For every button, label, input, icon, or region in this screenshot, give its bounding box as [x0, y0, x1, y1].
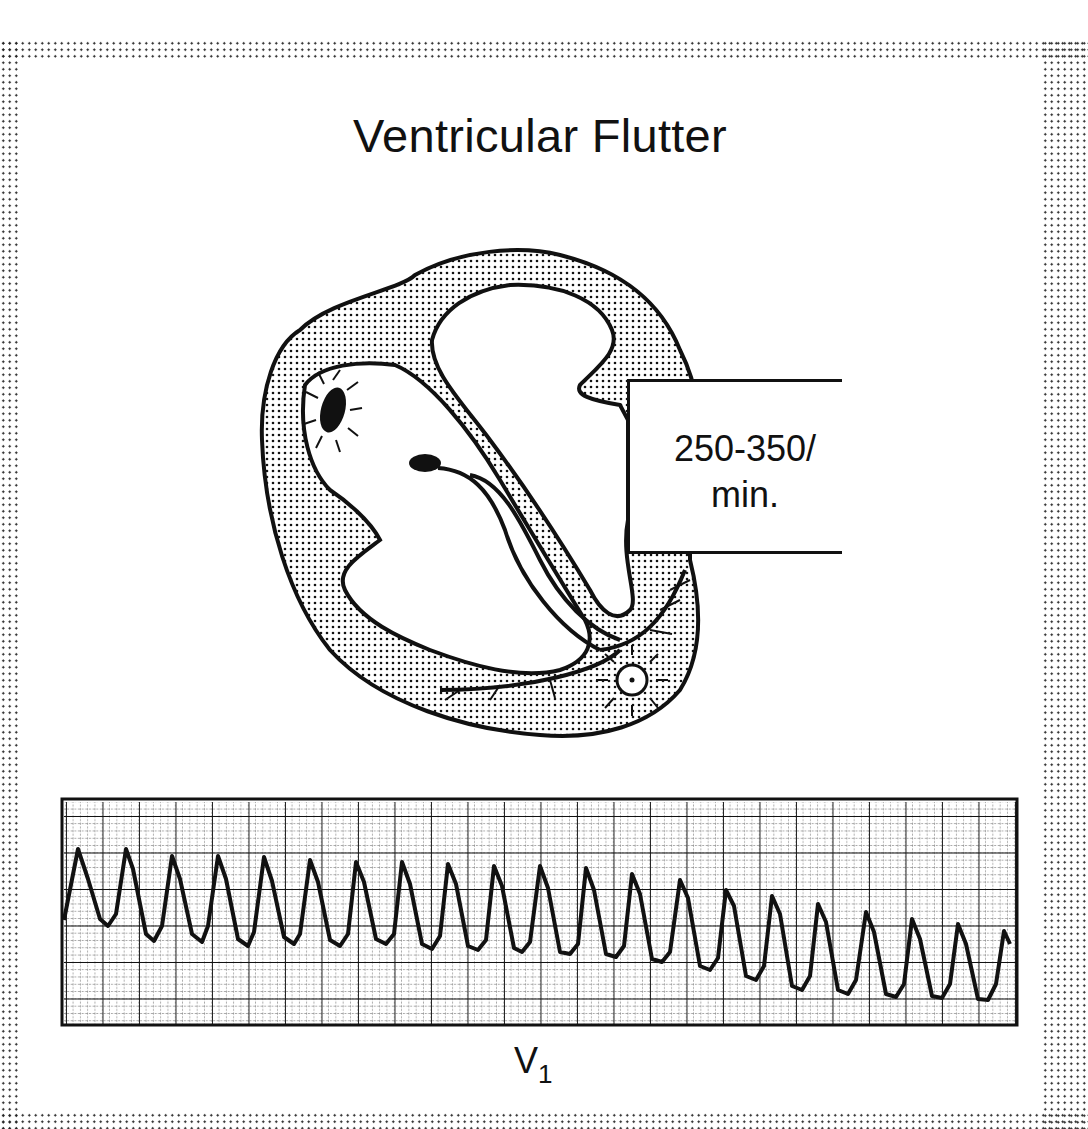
lead-label: V1 — [514, 1040, 552, 1090]
rate-label-box: 250-350/ min. — [627, 379, 842, 554]
stipple-frame-right — [1042, 40, 1088, 1129]
stipple-frame-top — [0, 40, 1088, 60]
ecg-strip — [58, 794, 1022, 1034]
rate-value: 250-350/ — [630, 428, 842, 470]
page-title: Ventricular Flutter — [0, 108, 1080, 163]
ecg-grid-major — [64, 802, 1016, 1024]
lead-label-main: V — [514, 1040, 538, 1081]
stipple-frame-bottom — [0, 1112, 1088, 1129]
stipple-frame-left — [0, 40, 19, 1129]
lead-label-sub: 1 — [538, 1059, 552, 1089]
rate-unit: min. — [630, 474, 842, 516]
